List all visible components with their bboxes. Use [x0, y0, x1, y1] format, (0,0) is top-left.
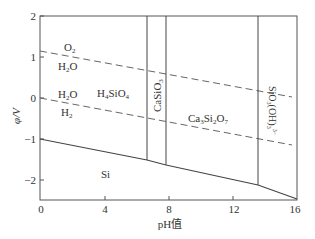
- label-casio3: CaSiO3: [151, 79, 165, 112]
- x-axis-label: pH值: [158, 218, 182, 230]
- label-h2o-upper: H2O: [58, 60, 77, 74]
- label-h2o-lower: H2O: [58, 88, 77, 102]
- label-si: Si: [101, 168, 110, 180]
- x-tick-label: 12: [229, 203, 240, 215]
- x-tick-label: 8: [166, 203, 172, 215]
- x-tick-label: 4: [102, 203, 108, 215]
- y-tick-label: 2: [31, 10, 37, 22]
- y-tick-label: 0: [31, 92, 37, 104]
- pourbaix-diagram: 2 1 0 −1 −2 φ/V 0 4 8 12 16 pH值 O2 H2O H…: [0, 0, 315, 239]
- label-o2: O2: [64, 41, 76, 55]
- y-tick-label: −1: [24, 133, 36, 145]
- x-axis: [105, 196, 233, 200]
- y-tick-label: −2: [24, 174, 36, 186]
- label-h2: H2: [61, 106, 73, 120]
- label-ca3si2o7: Ca3Si2O7: [188, 112, 228, 126]
- x-tick-label: 16: [290, 203, 302, 215]
- x-tick-label: 0: [38, 203, 44, 215]
- y-tick-label: 1: [31, 51, 37, 63]
- y-axis-label: φ/V: [10, 107, 22, 124]
- label-sio3oh3: SiO3(OH)33−: [266, 86, 278, 136]
- label-h4sio4: H4SiO4: [97, 87, 130, 101]
